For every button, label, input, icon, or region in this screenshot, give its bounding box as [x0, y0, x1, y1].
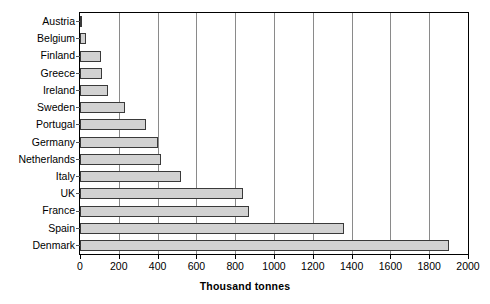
x-axis-tickmarks — [79, 255, 469, 259]
bar-greece — [80, 68, 102, 79]
category-tickmark — [76, 176, 80, 177]
category-tickmark — [76, 245, 80, 246]
bar-series — [80, 13, 468, 254]
category-tickmark — [76, 107, 80, 108]
x-tickmark — [119, 255, 120, 259]
x-tick-label-800: 800 — [226, 260, 244, 272]
bar-row — [80, 116, 468, 133]
category-label-austria: Austria — [0, 13, 75, 30]
x-tickmark — [390, 255, 391, 259]
category-label-spain: Spain — [0, 220, 75, 237]
category-label-sweden: Sweden — [0, 99, 75, 116]
plot-area — [79, 12, 469, 255]
category-label-netherlands: Netherlands — [0, 151, 75, 168]
bar-row — [80, 134, 468, 151]
x-tick-label-2000: 2000 — [456, 260, 479, 272]
category-tickmark — [76, 38, 80, 39]
category-tickmark — [76, 193, 80, 194]
bar-finland — [80, 51, 101, 62]
bar-row — [80, 237, 468, 254]
bar-netherlands — [80, 154, 161, 165]
bar-row — [80, 202, 468, 219]
bar-denmark — [80, 240, 449, 251]
bar-italy — [80, 171, 181, 182]
x-tickmark — [313, 255, 314, 259]
category-label-portugal: Portugal — [0, 116, 75, 133]
bar-row — [80, 151, 468, 168]
bar-row — [80, 99, 468, 116]
bar-chart: AustriaBelgiumFinlandGreeceIrelandSweden… — [0, 0, 490, 304]
bar-ireland — [80, 85, 108, 96]
x-tick-label-1200: 1200 — [301, 260, 324, 272]
x-tick-label-600: 600 — [188, 260, 206, 272]
category-label-uk: UK — [0, 185, 75, 202]
bar-row — [80, 82, 468, 99]
bar-row — [80, 13, 468, 30]
x-tick-label-0: 0 — [77, 260, 83, 272]
x-tickmark — [235, 255, 236, 259]
bar-austria — [80, 16, 82, 27]
bar-row — [80, 168, 468, 185]
x-tickmark — [429, 255, 430, 259]
category-tickmark — [76, 21, 80, 22]
category-tickmark — [76, 159, 80, 160]
category-label-denmark: Denmark — [0, 237, 75, 254]
category-tickmark — [76, 142, 80, 143]
bar-row — [80, 185, 468, 202]
bar-belgium — [80, 33, 86, 44]
bar-germany — [80, 137, 158, 148]
x-tickmark — [274, 255, 275, 259]
x-tick-label-1400: 1400 — [340, 260, 363, 272]
category-tickmark — [76, 90, 80, 91]
category-tickmark — [76, 73, 80, 74]
x-tickmark — [352, 255, 353, 259]
x-tick-label-1000: 1000 — [262, 260, 285, 272]
category-tickmark — [76, 56, 80, 57]
category-tickmark — [76, 124, 80, 125]
x-tickmark — [468, 255, 469, 259]
category-label-belgium: Belgium — [0, 30, 75, 47]
bar-portugal — [80, 119, 146, 130]
category-tickmark — [76, 211, 80, 212]
x-axis-title: Thousand tonnes — [0, 280, 490, 292]
bar-row — [80, 30, 468, 47]
category-label-greece: Greece — [0, 65, 75, 82]
bar-row — [80, 47, 468, 64]
x-tickmark — [158, 255, 159, 259]
x-tick-label-1800: 1800 — [418, 260, 441, 272]
x-axis-tick-labels: 0200400600800100012001400160018002000 — [79, 260, 469, 274]
bar-sweden — [80, 102, 125, 113]
bar-france — [80, 206, 249, 217]
category-label-germany: Germany — [0, 134, 75, 151]
category-tickmark — [76, 228, 80, 229]
bar-uk — [80, 188, 243, 199]
x-tick-label-1600: 1600 — [379, 260, 402, 272]
category-label-france: France — [0, 202, 75, 219]
bar-row — [80, 220, 468, 237]
category-label-finland: Finland — [0, 47, 75, 64]
bar-spain — [80, 223, 344, 234]
x-tickmark — [80, 255, 81, 259]
category-axis-labels: AustriaBelgiumFinlandGreeceIrelandSweden… — [0, 12, 75, 255]
category-label-italy: Italy — [0, 168, 75, 185]
category-label-ireland: Ireland — [0, 82, 75, 99]
x-tick-label-400: 400 — [149, 260, 167, 272]
x-tickmark — [196, 255, 197, 259]
x-tick-label-200: 200 — [110, 260, 128, 272]
bar-row — [80, 65, 468, 82]
